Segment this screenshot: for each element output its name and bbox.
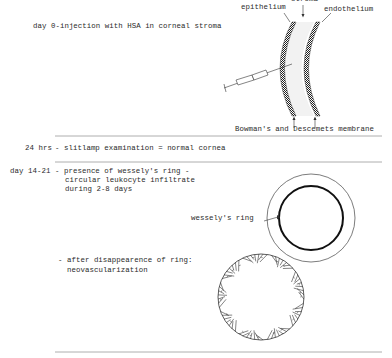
day14-line-3: during 2-8 days <box>65 185 132 194</box>
vessel-branch <box>250 335 252 336</box>
endothelium-label: endothelium <box>324 5 373 14</box>
epithelium-pointer <box>284 13 290 22</box>
vessel-branch <box>261 257 263 258</box>
vessel-sprout <box>221 283 224 291</box>
vessel-sprout <box>256 335 263 340</box>
after-line-2: neovascularization <box>67 266 148 275</box>
vessel-sprout <box>224 317 231 319</box>
wessely-ring-diagram <box>264 174 355 262</box>
cornea-outline <box>267 174 355 262</box>
vessel-branch <box>230 321 231 323</box>
vessel-sprout <box>271 332 274 339</box>
cornea-outline-neo <box>218 254 304 340</box>
day14-time: day 14-21 <box>10 167 50 176</box>
vessel-branch <box>221 290 222 292</box>
24hrs-text: - slitlamp examination = normal cornea <box>55 144 225 153</box>
vessel-branch <box>239 265 241 266</box>
vessel-sprout <box>232 265 234 270</box>
vessel-sprout <box>219 299 226 307</box>
vessel-sprout <box>227 271 233 273</box>
vessel-sprout <box>283 265 290 266</box>
ring-pointer <box>264 217 278 221</box>
day14-line-2: circular leukocyte infiltrate <box>65 176 195 185</box>
vessel-sprout <box>218 297 225 300</box>
vessel-sprout <box>260 255 267 263</box>
vessel-sprout <box>277 258 279 267</box>
vessel-sprout <box>292 315 295 323</box>
after-line-1: - after disappearence of ring: <box>58 256 193 265</box>
vessel-sprout <box>255 255 256 262</box>
vessel-sprout <box>224 275 234 276</box>
vessel-sprout <box>280 260 283 265</box>
diagram-canvas <box>0 0 392 358</box>
vessel-branch <box>292 319 294 320</box>
vessel-sprout <box>235 262 236 270</box>
vessel-sprout <box>257 254 259 263</box>
vessel-sprout <box>295 315 298 320</box>
vessel-sprout <box>254 330 255 339</box>
vessel-branch <box>281 330 283 331</box>
epithelium-label: epithelium <box>241 3 286 12</box>
vessel-sprout <box>293 308 303 310</box>
vessel-sprout <box>279 331 284 334</box>
vessel-sprout <box>278 327 286 331</box>
day14-line-1: - presence of wessely's ring - <box>55 167 190 176</box>
neovascularization-diagram <box>218 254 304 340</box>
membranes-label: Bowman's and Descemets membrane <box>235 125 374 134</box>
day0-label: day 0-injection with HSA in corneal stro… <box>33 22 221 31</box>
vessel-sprout <box>290 315 293 326</box>
wessely-ring-label: wessely's ring <box>191 214 254 223</box>
vessel-sprout <box>276 330 279 336</box>
endothelium-pointer <box>322 13 331 22</box>
vessel-branch <box>301 296 302 298</box>
vessel-sprout <box>226 320 230 323</box>
vessel-sprout <box>232 321 233 329</box>
vessel-sprout <box>293 312 300 315</box>
vessel-sprout <box>235 320 236 331</box>
vessel-sprout <box>281 328 290 329</box>
wessely-ring <box>279 186 343 250</box>
vessel-branch <box>242 331 244 332</box>
24hrs-time: 24 hrs <box>25 144 52 153</box>
stroma-label: stroma <box>291 0 318 4</box>
vessel-branch <box>294 277 295 279</box>
cornea-cross-section <box>280 5 331 128</box>
